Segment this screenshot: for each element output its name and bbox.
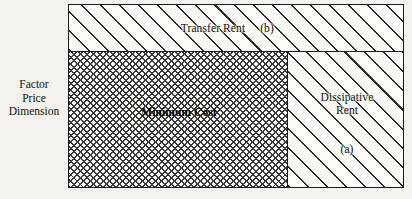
rent-decomposition-figure: Factor Price Dimension Transfer Rent (b)…: [0, 0, 412, 199]
axis-label-line-1: Factor: [2, 78, 66, 92]
axis-label-line-3: Dimension: [2, 105, 66, 119]
minimum-cost-label: Minimum Cost: [119, 106, 239, 119]
dissipative-rent-tag: (a): [317, 143, 377, 156]
transfer-rent-tag: (b): [247, 22, 287, 35]
dissipative-rent-region: [288, 52, 403, 187]
factor-price-dimension-axis-label: Factor Price Dimension: [2, 78, 66, 119]
rent-box-outline: Transfer Rent (b) Minimum Cost Dissipati…: [68, 4, 404, 188]
axis-label-line-2: Price: [2, 92, 66, 106]
dissipative-rent-label: Dissipative Rent: [305, 91, 389, 117]
minimum-cost-region: [69, 52, 288, 187]
